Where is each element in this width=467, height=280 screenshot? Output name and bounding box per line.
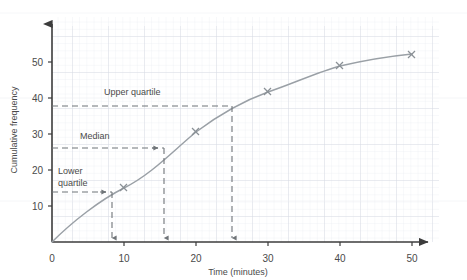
x-tick-label-20: 20 <box>190 253 202 264</box>
grid-area <box>52 17 439 242</box>
x-tick-label-30: 30 <box>262 253 274 264</box>
x-tick-label-40: 40 <box>334 253 346 264</box>
y-axis-title: Cumulative frequency <box>9 86 19 174</box>
x-tick-label-10: 10 <box>118 253 130 264</box>
y-tick-label-30: 30 <box>32 129 44 140</box>
y-tick-label-40: 40 <box>32 93 44 104</box>
y-tick-label-10: 10 <box>32 201 44 212</box>
lower-quartile-label-line2: quartile <box>58 178 88 188</box>
median-label: Median <box>80 131 110 141</box>
upper-quartile-label: Upper quartile <box>104 87 161 97</box>
x-axis-title: Time (minutes) <box>208 267 268 277</box>
lower-quartile-label-line1: Lower <box>58 166 83 176</box>
y-tick-label-50: 50 <box>32 57 44 68</box>
cumulative-frequency-chart: 10 20 30 40 50 0 10 20 30 40 50 Time (mi… <box>0 0 467 280</box>
y-tick-label-20: 20 <box>32 165 44 176</box>
chart-svg: 10 20 30 40 50 0 10 20 30 40 50 Time (mi… <box>0 0 467 280</box>
x-tick-label-50: 50 <box>406 253 418 264</box>
